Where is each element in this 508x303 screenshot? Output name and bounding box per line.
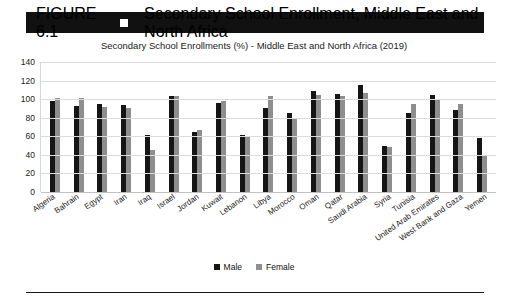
plot-gridlines — [40, 62, 496, 192]
x-axis-label: Syria — [373, 193, 393, 210]
bar-female — [363, 93, 368, 192]
gridline — [41, 155, 496, 156]
chart-title: Secondary School Enrollments (%) - Middl… — [0, 40, 508, 51]
y-axis-tick: 80 — [26, 113, 35, 122]
y-axis-tick: 120 — [21, 76, 35, 85]
gridline — [41, 136, 496, 137]
bar-female — [268, 96, 273, 192]
gridline — [41, 62, 496, 63]
bar-female — [126, 108, 131, 192]
gridline — [41, 173, 496, 174]
x-axis-label: Israel — [156, 193, 177, 211]
y-axis-tick: 0 — [30, 188, 35, 197]
bar-female — [435, 99, 440, 192]
legend-item-male: Male — [214, 262, 242, 272]
bar-female — [150, 150, 155, 192]
legend-swatch-female-icon — [256, 264, 262, 270]
bar-female — [102, 107, 107, 192]
y-axis-tick: 60 — [26, 132, 35, 141]
x-axis-label: Yemen — [464, 193, 489, 214]
x-axis-label: Iraq — [137, 193, 153, 207]
y-axis: 020406080100120140 — [12, 62, 38, 192]
bar-female — [79, 98, 84, 192]
x-axis-label: Iran — [113, 193, 129, 207]
x-axis-label: Bahrain — [53, 193, 80, 215]
y-axis-tick: 20 — [26, 169, 35, 178]
bar-female — [340, 96, 345, 192]
x-axis-label: Egypt — [83, 193, 104, 211]
x-axis-label: Algeria — [32, 193, 57, 214]
y-axis-tick: 100 — [21, 95, 35, 104]
square-marker-icon — [120, 19, 128, 27]
bottom-divider — [26, 292, 484, 293]
chart-plot-area: 020406080100120140 — [12, 62, 496, 192]
chart-legend: Male Female — [0, 262, 508, 272]
x-axis-label: Oman — [298, 193, 320, 212]
figure-header-bar: FIGURE 6.1 Secondary School Enrollment, … — [26, 12, 484, 33]
gridline — [41, 118, 496, 119]
bar-female — [316, 95, 321, 193]
bar-female — [221, 101, 226, 192]
x-axis-label: Morocco — [267, 193, 297, 217]
bar-female — [55, 98, 60, 192]
legend-label-male: Male — [224, 262, 242, 272]
legend-label-female: Female — [266, 262, 294, 272]
bar-female — [245, 136, 250, 192]
y-axis-tick: 140 — [21, 58, 35, 67]
gridline — [41, 81, 496, 82]
bar-female — [174, 96, 179, 192]
gridline — [41, 99, 496, 100]
figure-title: Secondary School Enrollment, Middle East… — [144, 5, 484, 41]
x-axis-label: Jordan — [176, 193, 201, 214]
x-axis-labels: AlgeriaBahrainEgyptIranIraqIsraelJordanK… — [40, 193, 496, 263]
bar-female — [197, 130, 202, 192]
bar-female — [387, 147, 392, 193]
legend-item-female: Female — [256, 262, 294, 272]
y-axis-tick: 40 — [26, 151, 35, 160]
legend-swatch-male-icon — [214, 264, 220, 270]
figure-number: FIGURE 6.1 — [36, 5, 106, 41]
